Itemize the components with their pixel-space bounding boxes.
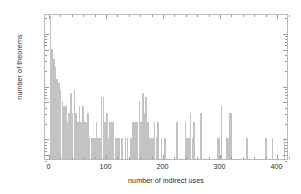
y-axis-tick [285, 98, 287, 99]
y-axis-tick [45, 102, 49, 103]
y-axis-tick [45, 95, 47, 96]
x-axis-tick [254, 157, 255, 159]
x-axis-tick [129, 157, 130, 159]
y-axis-tick [285, 92, 287, 93]
x-axis-tick [186, 15, 187, 17]
histogram-bar [176, 122, 178, 159]
x-axis-tick [186, 157, 187, 159]
x-axis-tick [140, 15, 141, 17]
y-axis-tick [45, 34, 49, 35]
x-axis-tick [174, 157, 175, 159]
y-axis-tick [45, 151, 47, 152]
x-axis-tick [140, 157, 141, 159]
y-axis-tick [285, 36, 287, 37]
x-axis-tick [95, 157, 96, 159]
x-axis-tick [72, 157, 73, 159]
y-axis-tick [45, 139, 49, 140]
x-axis-tick [174, 15, 175, 17]
y-axis-tick [285, 18, 287, 19]
x-axis-tick [163, 15, 164, 19]
y-axis-tick [285, 39, 287, 40]
x-axis-tick [231, 15, 232, 17]
histogram-bar [200, 113, 202, 159]
x-axis-tick-label: 200 [148, 163, 178, 171]
x-axis-tick [72, 15, 73, 17]
histogram-bar [157, 122, 159, 159]
histogram-bar [221, 106, 223, 159]
x-axis-tick [220, 155, 221, 159]
x-axis-tick [129, 15, 130, 17]
y-axis-tick [45, 87, 49, 88]
x-axis-tick [277, 15, 278, 19]
y-axis-tick [285, 142, 287, 143]
y-axis-tick [45, 145, 47, 146]
y-axis-tick [283, 50, 287, 51]
y-axis-tick [45, 55, 47, 56]
histogram-bar [121, 138, 123, 159]
x-axis-tick [95, 15, 96, 17]
x-axis-tick-label: 300 [205, 163, 235, 171]
x-axis-title: number of indirect uses [44, 176, 288, 185]
x-axis-tick [49, 155, 50, 159]
histogram-bar [127, 138, 129, 159]
y-axis-tick [45, 124, 47, 125]
x-axis-tick [266, 157, 267, 159]
x-axis-tick [243, 15, 244, 17]
y-axis-tick [283, 102, 287, 103]
y-axis-tick [285, 71, 287, 72]
x-axis-tick [106, 155, 107, 159]
x-axis-tick [49, 15, 50, 19]
y-axis-tick [45, 148, 47, 149]
y-axis-tick [45, 108, 47, 109]
y-axis-tick [283, 87, 287, 88]
y-axis-tick [45, 92, 47, 93]
histogram-bar [246, 138, 248, 159]
histogram-bar [161, 138, 163, 159]
histogram-bar [118, 138, 120, 159]
histogram-bar [193, 122, 195, 159]
y-axis-tick [283, 34, 287, 35]
x-axis-tick [231, 157, 232, 159]
y-axis-tick [45, 71, 47, 72]
y-axis-title: number of theorems [14, 17, 26, 117]
y-axis-tick [285, 145, 287, 146]
y-axis-tick [45, 61, 47, 62]
histogram-bar [265, 138, 267, 159]
y-axis-tick [45, 36, 47, 37]
y-axis-tick [45, 50, 49, 51]
x-axis-tick [266, 15, 267, 17]
histogram-bar [272, 138, 274, 159]
y-axis-tick [45, 45, 47, 46]
y-axis-tick [285, 161, 287, 162]
y-axis-tick [285, 151, 287, 152]
y-axis-tick [45, 89, 47, 90]
y-axis-tick [285, 114, 287, 115]
plot-area [45, 15, 287, 159]
x-axis-tick-label: 400 [262, 163, 292, 171]
x-axis-tick [277, 155, 278, 159]
y-axis-tick [45, 42, 47, 43]
y-axis-tick [45, 142, 47, 143]
y-axis-tick [45, 114, 47, 115]
histogram-bar [231, 113, 233, 159]
x-axis-tick [106, 15, 107, 19]
y-axis-tick [285, 45, 287, 46]
y-axis-tick [285, 61, 287, 62]
y-axis-tick [285, 108, 287, 109]
y-axis-tick [45, 98, 47, 99]
x-axis-tick [254, 15, 255, 17]
x-axis-tick [289, 15, 290, 17]
x-axis-tick [117, 15, 118, 17]
x-axis-tick [60, 157, 61, 159]
x-axis-tick [152, 15, 153, 17]
x-axis-tick [152, 157, 153, 159]
x-axis-tick [209, 157, 210, 159]
x-axis-tick [220, 15, 221, 19]
x-axis-tick [197, 157, 198, 159]
y-axis-tick [285, 95, 287, 96]
plot-frame [44, 14, 288, 160]
y-axis-tick [285, 42, 287, 43]
x-axis-tick [197, 15, 198, 17]
y-axis-tick [283, 155, 287, 156]
x-axis-tick [243, 157, 244, 159]
